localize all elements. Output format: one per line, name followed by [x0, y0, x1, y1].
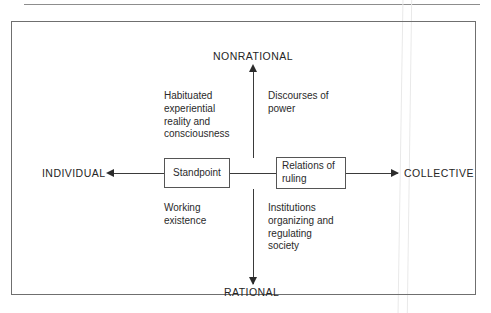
figure-border: NONRATIONAL RATIONAL INDIVIDUAL COLLECTI…: [11, 21, 476, 295]
node-standpoint: Standpoint: [164, 158, 230, 188]
horizontal-axis-left-segment: [109, 173, 165, 174]
axis-label-individual: INDIVIDUAL: [42, 167, 105, 179]
axis-label-nonrational: NONRATIONAL: [213, 50, 293, 62]
axis-label-collective: COLLECTIVE: [404, 167, 474, 179]
arrowhead-right-icon: [391, 169, 399, 177]
arrowhead-left-icon: [106, 169, 114, 177]
quadrant-text-upper-left: Habituated experiential reality and cons…: [164, 90, 250, 141]
quadrant-text-lower-left: Working existence: [164, 202, 250, 228]
arrowhead-up-icon: [249, 64, 257, 72]
vertical-axis-upper-segment: [253, 69, 254, 158]
vertical-axis-lower-segment: [253, 189, 254, 284]
node-relations-of-ruling: Relations of ruling: [276, 157, 346, 189]
quadrant-text-lower-right: Institutions organizing and regulating s…: [268, 202, 364, 253]
axis-label-rational: RATIONAL: [224, 286, 279, 298]
horizontal-axis-middle-segment: [230, 173, 277, 174]
figure-page: NONRATIONAL RATIONAL INDIVIDUAL COLLECTI…: [0, 0, 491, 313]
arrowhead-down-icon: [249, 277, 257, 285]
quadrant-text-upper-right: Discourses of power: [268, 90, 364, 116]
